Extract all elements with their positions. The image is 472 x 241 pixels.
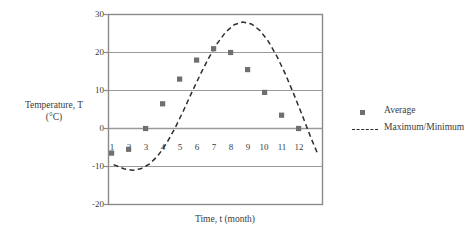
series-maximum-minimum-curve: [114, 22, 318, 170]
data-point-marker: [245, 67, 250, 72]
data-point-marker: [262, 90, 267, 95]
plot-area: [0, 0, 472, 241]
figure-container: Temperature, T (°C) Time, t (month) 30 2…: [0, 0, 472, 241]
data-point-marker: [143, 126, 148, 131]
legend-dashed-line-icon: [352, 129, 378, 130]
data-point-marker: [177, 77, 182, 82]
legend-square-marker-icon: [360, 110, 365, 115]
data-point-marker: [160, 101, 165, 106]
data-point-marker: [228, 50, 233, 55]
data-point-marker: [109, 151, 114, 156]
data-point-marker: [296, 126, 301, 131]
data-point-marker: [194, 58, 199, 63]
plot-frame: [109, 15, 323, 205]
data-point-marker: [126, 147, 131, 152]
legend-label: Average: [384, 105, 415, 115]
data-point-marker: [211, 46, 216, 51]
data-point-marker: [279, 113, 284, 118]
legend-label: Maximum/Minimum: [384, 122, 464, 132]
